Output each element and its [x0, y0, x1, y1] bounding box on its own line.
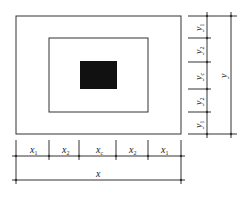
label-x1-right: x1 [160, 144, 168, 156]
label-y2-bottom: y2 [193, 98, 205, 106]
label-y1-top: y1 [193, 24, 205, 32]
label-xc: xc [95, 144, 103, 156]
label-y-total: y [218, 73, 229, 79]
label-x1-left: x1 [29, 144, 37, 156]
label-x-total: x [95, 168, 101, 179]
label-x2-left: x2 [61, 144, 69, 156]
label-y1-bottom: y1 [193, 121, 205, 129]
core-block [80, 61, 117, 89]
label-y2-top: y2 [193, 47, 205, 55]
label-x2-right: x2 [128, 144, 136, 156]
label-yc: yc [193, 73, 205, 81]
dimension-diagram: x1 x2 xc x2 x1 x y1 y2 yc y2 y1 y [0, 0, 249, 202]
